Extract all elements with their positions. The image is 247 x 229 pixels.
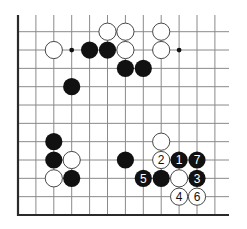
- white-stone-icon: [117, 23, 134, 40]
- black-stone-icon: [153, 170, 170, 187]
- black-stone-move-1: 1: [171, 151, 188, 168]
- black-stone-icon: [117, 151, 134, 168]
- move-number-label: 4: [176, 190, 183, 204]
- black-stone-icon: [81, 41, 98, 58]
- black-stone: [45, 151, 62, 168]
- white-stone-icon: [45, 41, 62, 58]
- move-number-label: 5: [140, 172, 147, 186]
- black-stone: [45, 133, 62, 150]
- move-number-label: 1: [176, 153, 183, 167]
- white-stone: [153, 41, 170, 58]
- white-stone: [45, 170, 62, 187]
- star-point-icon: [177, 48, 182, 53]
- black-stone-icon: [63, 78, 80, 95]
- white-stone-icon: [153, 41, 170, 58]
- white-stone-icon: [45, 170, 62, 187]
- move-number-label: 3: [194, 172, 201, 186]
- white-stone-icon: [153, 133, 170, 150]
- white-stone: [117, 23, 134, 40]
- black-stone-move-3: 3: [188, 170, 205, 187]
- black-stone-icon: [135, 60, 152, 77]
- black-stone: [63, 170, 80, 187]
- white-stone-icon: [153, 23, 170, 40]
- white-stone: [99, 23, 116, 40]
- black-stone: [135, 60, 152, 77]
- black-stone-icon: [63, 170, 80, 187]
- white-stone: [63, 151, 80, 168]
- white-stone: [153, 133, 170, 150]
- white-stone-move-4: 4: [171, 188, 188, 205]
- white-stone-icon: [63, 151, 80, 168]
- white-stone-move-2: 2: [153, 151, 170, 168]
- black-stone-icon: [117, 60, 134, 77]
- black-stone: [81, 41, 98, 58]
- white-stone-icon: [117, 41, 134, 58]
- black-stone-icon: [45, 133, 62, 150]
- black-stone-move-5: 5: [135, 170, 152, 187]
- white-stone: [45, 41, 62, 58]
- black-stone: [117, 151, 134, 168]
- black-stone: [63, 78, 80, 95]
- white-stone: [171, 170, 188, 187]
- black-stone: [117, 60, 134, 77]
- move-number-label: 6: [194, 190, 201, 204]
- white-stone-move-6: 6: [188, 188, 205, 205]
- move-number-label: 2: [158, 153, 165, 167]
- black-stone-icon: [99, 41, 116, 58]
- move-number-label: 7: [194, 153, 201, 167]
- black-stone-move-7: 7: [188, 151, 205, 168]
- black-stone: [153, 170, 170, 187]
- go-board: 2175346: [0, 0, 247, 229]
- white-stone: [117, 41, 134, 58]
- black-stone-icon: [45, 151, 62, 168]
- white-stone-icon: [99, 23, 116, 40]
- black-stone: [99, 41, 116, 58]
- white-stone: [153, 23, 170, 40]
- white-stone-icon: [171, 170, 188, 187]
- star-point-icon: [69, 48, 74, 53]
